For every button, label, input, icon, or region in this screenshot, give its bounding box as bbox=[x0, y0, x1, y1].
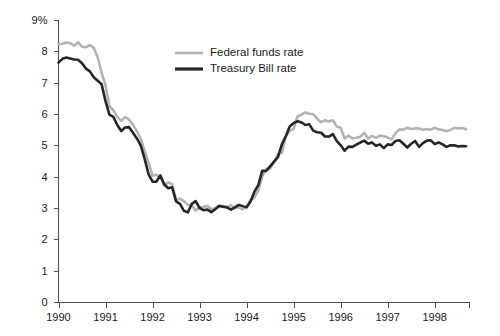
y-tick-label: 1 bbox=[41, 265, 47, 277]
y-tick-label: 9% bbox=[32, 14, 48, 26]
x-tick-label: 1997 bbox=[375, 311, 399, 323]
y-tick-label: 0 bbox=[41, 296, 47, 308]
x-tick-label: 1991 bbox=[93, 311, 117, 323]
chart-legend: Federal funds rateTreasury Bill rate bbox=[175, 46, 303, 74]
x-axis-group: 199019911992199319941995199619971998 bbox=[46, 302, 470, 323]
y-tick-label: 8 bbox=[41, 45, 47, 57]
x-tick-label: 1996 bbox=[328, 311, 352, 323]
y-tick-label: 3 bbox=[41, 202, 47, 214]
y-tick-group: 0123456789% bbox=[32, 14, 59, 308]
x-tick-label: 1992 bbox=[140, 311, 164, 323]
x-tick-label: 1993 bbox=[187, 311, 211, 323]
x-tick-label: 1998 bbox=[422, 311, 446, 323]
x-tick-group: 199019911992199319941995199619971998 bbox=[46, 302, 469, 323]
y-tick-label: 7 bbox=[41, 77, 47, 89]
legend-label: Federal funds rate bbox=[210, 46, 303, 58]
y-tick-label: 5 bbox=[41, 139, 47, 151]
y-tick-label: 2 bbox=[41, 233, 47, 245]
legend-label: Treasury Bill rate bbox=[210, 62, 297, 74]
interest-rates-chart: 0123456789% 1990199119921993199419951996… bbox=[0, 0, 500, 336]
chart-canvas: 0123456789% 1990199119921993199419951996… bbox=[0, 0, 500, 336]
x-tick-label: 1990 bbox=[46, 311, 70, 323]
y-axis-group: 0123456789% bbox=[32, 14, 59, 308]
series-line-treasury-bill bbox=[59, 58, 467, 213]
y-tick-label: 6 bbox=[41, 108, 47, 120]
x-tick-label: 1995 bbox=[281, 311, 305, 323]
y-tick-label: 4 bbox=[41, 171, 47, 183]
x-tick-label: 1994 bbox=[234, 311, 258, 323]
